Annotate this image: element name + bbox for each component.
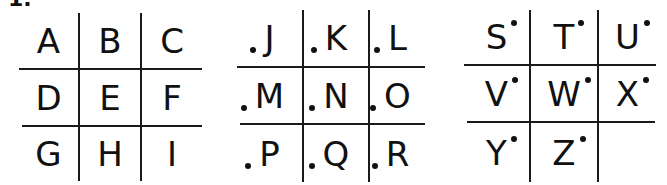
dot-marker (512, 77, 518, 83)
dot-marker (511, 136, 517, 142)
cell-letter: Q (323, 137, 350, 171)
cell-letter: F (162, 81, 182, 115)
cell-letter: O (384, 79, 411, 113)
grid-cell: H (80, 127, 140, 181)
grid-cell: D (19, 70, 78, 125)
dot-marker (372, 163, 378, 169)
cell-letter: I (167, 137, 177, 171)
grid-cell: L (370, 10, 425, 66)
grid-cell: E (80, 70, 140, 125)
dot-marker (585, 77, 591, 83)
grid-cell: X (599, 66, 656, 121)
grid-cell: F (142, 70, 202, 125)
grid-dot-right: S T U V W X Y Z (464, 10, 656, 182)
letter-text: W (547, 74, 581, 114)
grid-cell: V (464, 66, 529, 121)
grid-cell: I (142, 127, 202, 181)
cell-letter: B (98, 24, 121, 58)
dot-marker (511, 20, 517, 26)
letter-text: X (616, 74, 639, 114)
grid-cell: O (370, 68, 425, 123)
dot-marker (374, 47, 380, 53)
dot-marker (245, 163, 251, 169)
cell-letter: C (160, 24, 184, 58)
cell-letter: S (486, 20, 508, 54)
letter-text: T (554, 17, 575, 57)
dot-marker (241, 105, 247, 111)
cell-letter: L (388, 21, 407, 55)
grid-cell-empty (599, 123, 656, 182)
letter-text: J (264, 18, 274, 58)
grid-cell: P (237, 125, 302, 182)
grid-cell: R (370, 125, 425, 182)
grid-cell: W (531, 66, 597, 121)
cell-letter: Y (486, 136, 507, 170)
letter-text: P (259, 134, 280, 174)
grid-plain: A B C D E F G H I (19, 13, 202, 181)
cell-letter: N (323, 79, 348, 113)
cell-letter: T (554, 20, 575, 54)
grid-cell: N (304, 68, 368, 123)
dot-marker (578, 20, 584, 26)
grid-cell: J (237, 10, 302, 66)
grid-cell: Z (531, 123, 597, 182)
cell-letter: V (485, 77, 508, 111)
cell-letter: W (547, 77, 581, 111)
letter-text: Q (323, 134, 350, 174)
dot-marker (370, 105, 376, 111)
letter-text: Y (486, 133, 507, 173)
grid-cell: A (19, 13, 78, 68)
grid-cell: C (142, 13, 202, 68)
grid-cell: G (19, 127, 78, 181)
cell-letter: R (386, 137, 410, 171)
grid-cell: K (304, 10, 368, 66)
grid-cell: B (80, 13, 140, 68)
dot-marker (644, 20, 650, 26)
letter-text: S (486, 17, 508, 57)
letter-text: L (388, 18, 407, 58)
cell-letter: G (35, 137, 61, 171)
dot-marker (309, 105, 315, 111)
cell-letter: Z (552, 136, 575, 170)
grid-cell: S (464, 10, 529, 64)
grid-cell: T (531, 10, 597, 64)
grid-dot-left: J K L M N O P Q R (237, 10, 425, 182)
cell-letter: M (255, 79, 284, 113)
grid-cell: Y (464, 123, 529, 182)
cell-letter: J (264, 21, 274, 55)
letter-text: R (386, 134, 410, 174)
letter-text: U (615, 17, 640, 57)
grid-cell: U (599, 10, 656, 64)
dot-marker (643, 77, 649, 83)
cell-letter: P (259, 137, 280, 171)
letter-text: K (325, 18, 347, 58)
dot-marker (250, 47, 256, 53)
cell-letter: E (99, 81, 120, 115)
cell-letter: X (616, 77, 639, 111)
letter-text: M (255, 76, 284, 116)
cell-letter: U (615, 20, 640, 54)
cell-letter: D (35, 81, 61, 115)
cell-letter: K (325, 21, 347, 55)
cell-letter: A (37, 24, 60, 58)
letter-text: N (323, 76, 348, 116)
letter-text: V (485, 74, 508, 114)
letter-text: Z (552, 133, 575, 173)
cell-letter: H (97, 137, 123, 171)
figure-number-label: 1. (8, 0, 32, 11)
letter-text: O (384, 76, 411, 116)
dot-marker (580, 136, 586, 142)
grid-cell: Q (304, 125, 368, 182)
dot-marker (309, 163, 315, 169)
dot-marker (311, 47, 317, 53)
grid-cell: M (237, 68, 302, 123)
